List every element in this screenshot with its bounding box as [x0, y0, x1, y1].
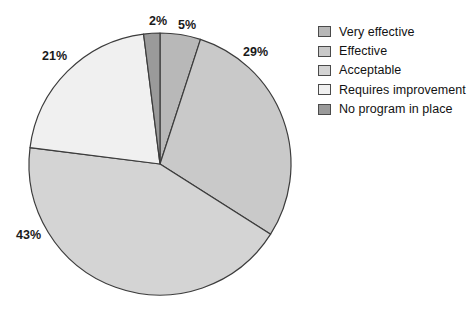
- legend-swatch-icon: [318, 84, 331, 95]
- legend-item-label: No program in place: [339, 102, 453, 116]
- legend-item-label: Very effective: [339, 25, 415, 39]
- legend-item[interactable]: No program in place: [318, 100, 474, 119]
- slice-label-effective: 29%: [243, 45, 268, 59]
- slice-label-requires-improvement: 21%: [42, 49, 67, 63]
- pie-slice-group: [29, 33, 291, 295]
- slice-label-acceptable: 43%: [16, 228, 41, 242]
- pie-chart-figure: 5% 29% 43% 21% 2% Very effectiveEffectiv…: [0, 0, 476, 314]
- chart-legend: Very effectiveEffectiveAcceptableRequire…: [318, 22, 474, 119]
- legend-swatch-icon: [318, 65, 331, 76]
- legend-swatch-icon: [318, 46, 331, 57]
- legend-item-label: Acceptable: [339, 63, 401, 77]
- legend-item-label: Requires improvement: [339, 83, 466, 97]
- legend-item[interactable]: Very effective: [318, 22, 474, 41]
- legend-item[interactable]: Requires improvement: [318, 80, 474, 99]
- legend-item[interactable]: Effective: [318, 41, 474, 60]
- slice-label-very-effective: 5%: [178, 18, 196, 32]
- legend-item-label: Effective: [339, 44, 387, 58]
- legend-swatch-icon: [318, 26, 331, 37]
- legend-item[interactable]: Acceptable: [318, 61, 474, 80]
- legend-swatch-icon: [318, 104, 331, 115]
- slice-label-no-program: 2%: [149, 14, 167, 28]
